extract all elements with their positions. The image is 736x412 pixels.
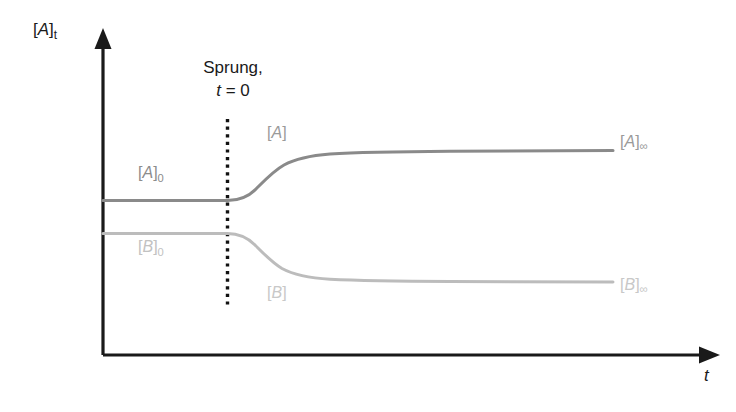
y-axis-title-variable: A: [38, 20, 49, 39]
curve-b: [103, 234, 613, 283]
y-axis-arrowhead: [95, 28, 112, 49]
label-a-initial-subscript: 0: [158, 172, 164, 184]
label-b-initial-variable: B: [142, 238, 153, 255]
y-axis-title-subscript: t: [54, 28, 57, 42]
x-axis-arrowhead: [699, 347, 720, 364]
label-a-final-subscript: ∞: [640, 140, 649, 152]
label-a-initial: [A]0: [138, 164, 164, 184]
jump-annotation: Sprung,t = 0: [174, 58, 292, 100]
label-b-curve-close: ]: [282, 284, 286, 301]
label-b-initial: [B]0: [138, 238, 164, 258]
jump-annotation-line1: Sprung,: [203, 58, 263, 77]
relaxation-kinetics-figure: [A]t t Sprung,t = 0 [A]0 [A] [A]∞ [B]0 […: [0, 0, 736, 412]
label-b-final-subscript: ∞: [640, 283, 649, 295]
label-a-initial-variable: A: [142, 164, 153, 181]
label-a-curve-variable: A: [271, 124, 282, 141]
label-b-curve: [B]: [267, 284, 287, 302]
label-b-final-variable: B: [624, 276, 635, 293]
x-axis-title: t: [704, 366, 709, 386]
y-axis-title: [A]t: [33, 20, 57, 42]
jump-annotation-line2: t = 0: [174, 81, 292, 101]
label-a-final: [A]∞: [620, 133, 648, 154]
jump-annotation-time-value: = 0: [221, 81, 250, 100]
label-b-curve-variable: B: [271, 284, 282, 301]
label-b-initial-subscript: 0: [158, 246, 164, 258]
plot-canvas: [0, 0, 736, 412]
label-a-curve: [A]: [267, 124, 287, 142]
curve-a: [103, 151, 613, 201]
label-a-final-variable: A: [624, 133, 635, 150]
label-b-final: [B]∞: [620, 276, 648, 297]
label-a-curve-close: ]: [282, 124, 286, 141]
